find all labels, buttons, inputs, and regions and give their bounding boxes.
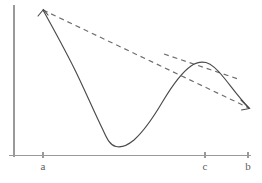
mvt-figure: a c b bbox=[0, 0, 262, 183]
secant-line bbox=[43, 10, 249, 108]
function-curve bbox=[43, 10, 249, 147]
axis-label-c: c bbox=[198, 161, 212, 172]
axis-label-a: a bbox=[36, 161, 50, 172]
curve-start-arrowhead bbox=[38, 10, 48, 17]
tangent-line-at-c bbox=[164, 54, 238, 79]
axis-label-b: b bbox=[241, 161, 255, 172]
plot-canvas bbox=[0, 0, 262, 183]
